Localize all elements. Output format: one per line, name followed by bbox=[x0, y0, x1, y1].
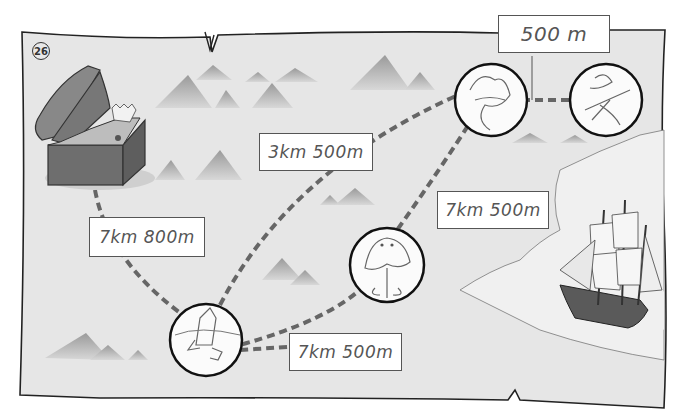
distance-text: 7km 500m bbox=[298, 342, 394, 362]
distance-text: 7km 500m bbox=[445, 200, 541, 220]
scribble-circle-2 bbox=[570, 64, 642, 136]
distance-label-jellyfish-to-top: 7km 500m bbox=[437, 191, 549, 229]
distance-label-rocket-to-top: 3km 500m bbox=[259, 133, 373, 171]
distance-text: 3km 500m bbox=[268, 142, 364, 162]
treasure-map-worksheet: 26 7km 800m 3km 500m 7km 500m 7km 500m 5… bbox=[0, 0, 685, 414]
distance-label-chest-to-rocket: 7km 800m bbox=[89, 217, 205, 257]
problem-number-badge: 26 bbox=[32, 42, 50, 60]
distance-label-top-circles: 500 m bbox=[498, 15, 610, 53]
rocket-circle bbox=[170, 304, 242, 376]
distance-label-rocket-to-bottom: 7km 500m bbox=[289, 333, 402, 371]
distance-text: 500 m bbox=[521, 22, 588, 46]
distance-text: 7km 800m bbox=[99, 227, 195, 247]
jellyfish-circle bbox=[350, 228, 424, 302]
scribble-circle-1 bbox=[455, 64, 527, 136]
